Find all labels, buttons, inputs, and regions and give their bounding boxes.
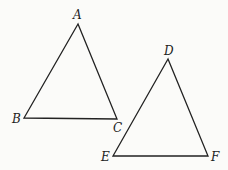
vertex-label-b: B: [11, 112, 21, 126]
triangle-abc: [24, 24, 117, 119]
triangle-def: [113, 59, 208, 156]
diagram-canvas: A B C D E F: [0, 0, 228, 170]
vertex-label-a: A: [72, 8, 82, 22]
vertex-label-f: F: [210, 150, 220, 164]
triangles-figure: A B C D E F: [0, 0, 228, 170]
vertex-label-e: E: [100, 150, 110, 164]
vertex-label-c: C: [113, 121, 122, 135]
vertex-label-d: D: [163, 44, 174, 58]
